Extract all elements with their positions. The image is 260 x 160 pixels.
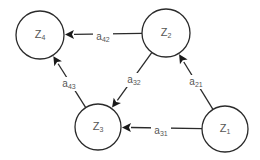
- arrowhead-icon: [65, 30, 74, 39]
- arrowhead-icon: [122, 123, 131, 132]
- edge-label-a32-subscript: 32: [133, 79, 141, 86]
- node-label-z3-subscript: 3: [99, 126, 103, 133]
- edge-a32: a32: [112, 52, 152, 107]
- arrowhead-icon: [53, 56, 62, 66]
- node-z2: Z2: [142, 9, 190, 57]
- node-label-z1-subscript: 1: [226, 128, 230, 135]
- node-z1: Z1: [202, 106, 248, 152]
- edge-label-a31-subscript: 31: [160, 130, 168, 137]
- arrowhead-icon: [112, 98, 121, 108]
- edge-a42: a42: [65, 30, 142, 44]
- edge-a31: a31: [122, 123, 202, 138]
- edge-a43: a43: [53, 56, 85, 107]
- edge-label-a42-subscript: 42: [102, 36, 110, 43]
- node-z3: Z3: [75, 104, 121, 150]
- graph-diagram: a42a32a21a43a31 Z4Z2Z3Z1: [0, 0, 260, 160]
- node-label-z2-subscript: 2: [167, 32, 171, 39]
- arrowhead-icon: [179, 54, 188, 64]
- node-z4: Z4: [16, 11, 64, 59]
- edge-a21: a21: [179, 54, 213, 109]
- node-label-z4-subscript: 4: [41, 34, 45, 41]
- edge-label-a43-subscript: 43: [68, 83, 76, 90]
- edge-label-a21-subscript: 21: [195, 81, 203, 88]
